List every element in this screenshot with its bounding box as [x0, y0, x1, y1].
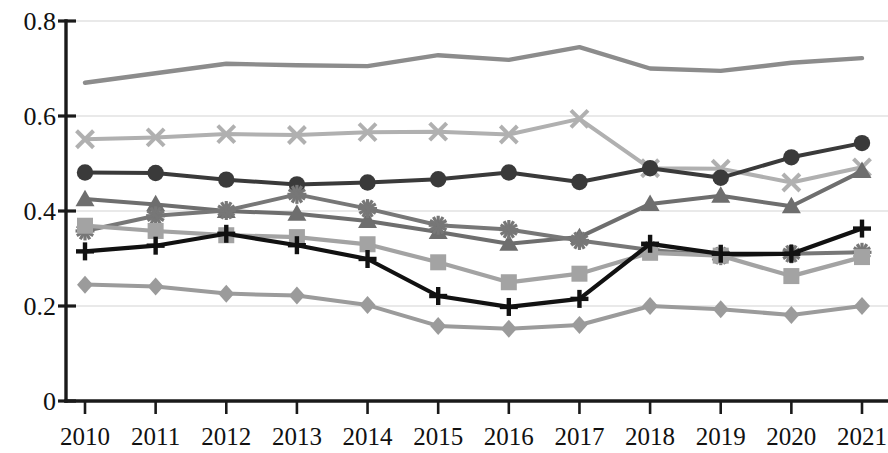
x-axis-label: 2012 — [201, 423, 251, 450]
x-axis-label: 2011 — [131, 423, 180, 450]
data-point-marker — [783, 306, 799, 324]
series-line — [85, 229, 862, 307]
series-series-1-plain-line — [85, 47, 862, 83]
data-point-marker — [147, 165, 163, 181]
data-point-marker — [430, 254, 446, 270]
x-axis-label: 2020 — [766, 423, 816, 450]
series-line — [85, 47, 862, 83]
data-point-marker — [360, 296, 376, 314]
data-point-marker — [571, 174, 587, 190]
x-axis-tick-labels: 2010201120122013201420152016201720182019… — [60, 423, 887, 450]
data-point-marker — [430, 171, 446, 187]
data-point-marker — [289, 287, 305, 305]
data-point-marker — [571, 316, 587, 334]
x-axis-label: 2018 — [625, 423, 675, 450]
x-axis-label: 2019 — [696, 423, 746, 450]
data-point-marker — [501, 164, 517, 180]
data-point-marker — [148, 278, 164, 296]
y-axis-label: 0.4 — [24, 197, 57, 226]
series-line — [85, 119, 862, 183]
series-series-8-diamond — [77, 276, 870, 338]
data-point-marker — [783, 149, 799, 165]
x-axis-label: 2014 — [343, 423, 394, 450]
data-point-marker — [218, 285, 234, 303]
x-axis-label: 2015 — [413, 423, 463, 450]
data-point-marker — [854, 297, 870, 315]
series-series-3-circle — [77, 135, 870, 193]
data-point-marker — [359, 174, 375, 190]
data-point-marker — [642, 160, 658, 176]
x-axis-label: 2016 — [484, 423, 534, 450]
data-point-marker — [854, 249, 870, 265]
line-chart: 00.20.40.60.8 20102011201220132014201520… — [0, 0, 888, 453]
data-point-marker — [713, 170, 729, 186]
x-axis-label: 2017 — [554, 423, 604, 450]
data-point-marker — [77, 164, 93, 180]
y-axis-label: 0.6 — [24, 102, 57, 131]
y-axis-tick-labels: 00.20.40.60.8 — [24, 7, 57, 416]
data-point-marker — [783, 268, 799, 284]
data-point-marker — [360, 236, 376, 252]
series-line — [85, 194, 862, 255]
y-axis-label: 0.2 — [24, 292, 57, 321]
x-axis-label: 2013 — [272, 423, 322, 450]
data-point-marker — [148, 223, 164, 239]
data-point-marker — [218, 171, 234, 187]
data-point-marker — [77, 218, 93, 234]
data-point-marker — [430, 317, 446, 335]
series-series-2-cross — [77, 110, 871, 191]
data-point-marker — [713, 300, 729, 318]
series-line — [85, 143, 862, 184]
data-point-marker — [501, 274, 517, 290]
data-point-marker — [77, 276, 93, 294]
chart-canvas: 00.20.40.60.8 20102011201220132014201520… — [0, 0, 888, 453]
data-series-layer — [76, 47, 872, 338]
y-axis-label: 0 — [43, 387, 56, 416]
data-point-marker — [501, 320, 517, 338]
series-line — [85, 285, 862, 329]
data-point-marker — [571, 266, 587, 282]
data-point-marker — [854, 135, 870, 151]
data-point-marker — [642, 297, 658, 315]
y-axis-label: 0.8 — [24, 7, 57, 36]
x-axis-label: 2021 — [837, 423, 887, 450]
x-axis-tick-marks — [85, 401, 862, 414]
x-axis-label: 2010 — [60, 423, 110, 450]
